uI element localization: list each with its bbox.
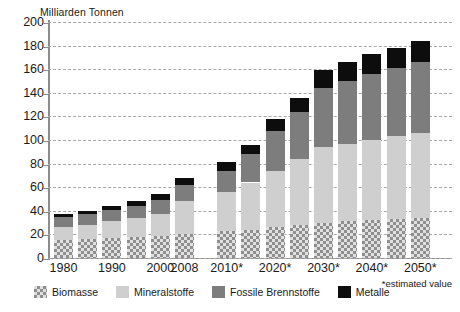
bar-segment-biomasse xyxy=(411,218,430,258)
y-tick-mark xyxy=(43,165,48,166)
bar-segment-metalle xyxy=(411,41,430,62)
legend-label: Biomasse xyxy=(52,286,98,298)
x-tick-label: 2020* xyxy=(259,261,292,275)
y-tick-label: 40 xyxy=(30,204,44,218)
bar-segment-metalle xyxy=(78,211,97,215)
bar xyxy=(241,145,260,258)
legend-item: Biomasse xyxy=(34,286,98,298)
gridline xyxy=(48,258,452,259)
bar-segment-metalle xyxy=(338,62,357,81)
y-tick-mark xyxy=(43,235,48,236)
bar-segment-metalle xyxy=(217,162,236,170)
stacked-bar-chart: Milliarden Tonnen 0204060801001201401601… xyxy=(0,0,460,312)
legend-label: Fossile Brennstoffe xyxy=(230,286,320,298)
legend-item: Metalle xyxy=(338,286,390,298)
bar xyxy=(314,70,333,258)
y-tick-label: 200 xyxy=(23,15,44,29)
bar-segment-biomasse xyxy=(127,237,146,258)
black-swatch xyxy=(338,286,351,298)
x-tick-label: 2050* xyxy=(404,261,437,275)
y-tick-label: 180 xyxy=(23,39,44,53)
bar xyxy=(127,201,146,258)
bar-segment-metalle xyxy=(241,145,260,154)
gridline xyxy=(48,22,452,23)
bar xyxy=(151,194,170,258)
bar xyxy=(78,211,97,258)
bar-segment-metalle xyxy=(54,214,73,216)
bar xyxy=(266,119,285,258)
bar-segment-fossile-brennstoffe xyxy=(127,206,146,218)
y-axis-tick-labels: 020406080100120140160180200 xyxy=(0,22,44,258)
bar-segment-mineralstoffe xyxy=(102,221,121,238)
y-tick-label: 20 xyxy=(30,227,44,241)
legend-item: Fossile Brennstoffe xyxy=(212,286,320,298)
bar xyxy=(290,98,309,258)
bar-segment-metalle xyxy=(175,178,194,185)
chart-legend: BiomasseMineralstoffeFossile Brennstoffe… xyxy=(34,286,403,298)
bar-segment-biomasse xyxy=(387,219,406,258)
bar-segment-mineralstoffe xyxy=(266,171,285,228)
bar-segment-mineralstoffe xyxy=(338,144,357,222)
bar-segment-metalle xyxy=(102,206,121,210)
bar-segment-metalle xyxy=(151,194,170,200)
y-axis-title: Milliarden Tonnen xyxy=(40,6,124,18)
y-tick-mark xyxy=(43,70,48,71)
bar-segment-mineralstoffe xyxy=(411,133,430,218)
bar-segment-metalle xyxy=(266,119,285,131)
bar xyxy=(362,54,381,258)
bar-segment-fossile-brennstoffe xyxy=(102,210,121,222)
y-tick-label: 80 xyxy=(30,157,44,171)
y-tick-mark xyxy=(43,23,48,24)
y-tick-mark xyxy=(43,141,48,142)
bar-segment-mineralstoffe xyxy=(241,183,260,230)
bar-segment-biomasse xyxy=(314,223,333,258)
bar-segment-fossile-brennstoffe xyxy=(362,74,381,140)
bar-segment-biomasse xyxy=(54,240,73,258)
bar-segment-biomasse xyxy=(151,236,170,258)
bar-segment-mineralstoffe xyxy=(78,225,97,239)
y-tick-mark xyxy=(43,94,48,95)
bar-segment-fossile-brennstoffe xyxy=(217,171,236,192)
y-tick-mark xyxy=(43,188,48,189)
bar xyxy=(411,41,430,258)
bar xyxy=(102,206,121,258)
y-tick-label: 140 xyxy=(23,86,44,100)
x-tick-label: 2030* xyxy=(307,261,340,275)
bar-segment-fossile-brennstoffe xyxy=(54,217,73,228)
y-tick-label: 100 xyxy=(23,133,44,147)
bar-segment-fossile-brennstoffe xyxy=(290,112,309,159)
legend-item: Mineralstoffe xyxy=(116,286,194,298)
y-tick-label: 120 xyxy=(23,109,44,123)
bar xyxy=(338,62,357,258)
bar-segment-fossile-brennstoffe xyxy=(241,154,260,182)
plot-area xyxy=(48,22,452,258)
bar-segment-mineralstoffe xyxy=(54,227,73,240)
legend-label: Metalle xyxy=(356,286,390,298)
x-tick-label: 1980 xyxy=(50,261,78,275)
light-gray-swatch xyxy=(116,286,129,298)
x-tick-label: 2010* xyxy=(210,261,243,275)
bar-segment-mineralstoffe xyxy=(290,159,309,225)
x-tick-label: 2008 xyxy=(171,261,199,275)
x-tick-label: 2040* xyxy=(356,261,389,275)
mid-gray-swatch xyxy=(212,286,225,298)
bar-segment-biomasse xyxy=(266,227,285,258)
x-tick-label: 1990 xyxy=(98,261,126,275)
bar-segment-metalle xyxy=(387,48,406,68)
bar xyxy=(54,214,73,258)
bar-segment-biomasse xyxy=(362,220,381,258)
bar-segment-mineralstoffe xyxy=(151,214,170,235)
bar xyxy=(217,162,236,258)
bar-segment-biomasse xyxy=(338,221,357,258)
bar-segment-biomasse xyxy=(241,230,260,258)
bar-segment-fossile-brennstoffe xyxy=(338,81,357,144)
y-tick-mark xyxy=(43,259,48,260)
y-tick-mark xyxy=(43,47,48,48)
bar-segment-mineralstoffe xyxy=(362,140,381,220)
y-tick-label: 60 xyxy=(30,180,44,194)
bar xyxy=(175,178,194,258)
bar-segment-metalle xyxy=(314,70,333,88)
bar-segment-fossile-brennstoffe xyxy=(411,62,430,133)
y-tick-mark xyxy=(43,117,48,118)
bar-segment-fossile-brennstoffe xyxy=(314,88,333,147)
